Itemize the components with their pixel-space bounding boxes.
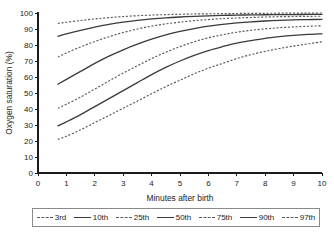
curve-25th (58, 26, 322, 108)
percentile-curves (58, 13, 322, 139)
oxygen-saturation-chart-figure: 0102030405060708090100012345678910Minute… (0, 0, 334, 235)
y-tick-label: 100 (20, 9, 34, 18)
legend-swatch-97th-icon (282, 217, 298, 218)
legend-entry-50th[interactable]: 50th (157, 214, 192, 222)
legend-label: 25th (134, 214, 150, 222)
legend-entry-90th[interactable]: 90th (240, 214, 275, 222)
y-tick-label: 70 (24, 57, 33, 66)
legend-entry-97th[interactable]: 97th (282, 214, 316, 222)
legend-swatch-3rd-icon (37, 217, 53, 218)
curve-50th (58, 19, 322, 84)
x-tick-label: 9 (291, 179, 296, 188)
chart-plot-area: 0102030405060708090100012345678910Minute… (0, 0, 334, 235)
y-tick-label: 60 (24, 73, 33, 82)
legend-label: 50th (176, 214, 192, 222)
legend-label: 75th (217, 214, 233, 222)
legend-swatch-90th-icon (240, 217, 257, 218)
y-axis-title: Oxygen saturation (%) (4, 51, 14, 135)
y-tick-label: 20 (24, 137, 33, 146)
y-tick-label: 10 (24, 153, 33, 162)
axis-labels: 0102030405060708090100012345678910Minute… (4, 9, 327, 203)
legend-swatch-50th-icon (157, 217, 174, 218)
y-tick-label: 40 (24, 105, 33, 114)
legend-swatch-25th-icon (116, 217, 132, 218)
x-tick-label: 2 (93, 179, 98, 188)
x-tick-label: 0 (36, 179, 41, 188)
x-tick-label: 5 (178, 179, 183, 188)
legend-swatch-75th-icon (199, 217, 215, 218)
legend-entry-75th[interactable]: 75th (199, 214, 233, 222)
legend-label: 3rd (55, 214, 67, 222)
x-tick-label: 4 (149, 179, 154, 188)
legend-label: 97th (300, 214, 316, 222)
y-tick-label: 50 (24, 89, 33, 98)
legend-entry-3rd[interactable]: 3rd (37, 214, 67, 222)
legend-entry-10th[interactable]: 10th (74, 214, 109, 222)
legend-swatch-10th-icon (74, 217, 91, 218)
legend-entry-25th[interactable]: 25th (116, 214, 150, 222)
x-axis-title: Minutes after birth (146, 193, 213, 203)
x-tick-label: 1 (64, 179, 69, 188)
y-tick-label: 0 (29, 169, 34, 178)
curve-90th (58, 14, 322, 36)
x-tick-label: 6 (206, 179, 211, 188)
y-tick-label: 30 (24, 121, 33, 130)
x-tick-label: 3 (121, 179, 126, 188)
y-tick-label: 90 (24, 25, 33, 34)
y-tick-label: 80 (24, 41, 33, 50)
x-tick-label: 8 (263, 179, 268, 188)
x-tick-label: 10 (318, 179, 327, 188)
x-tick-label: 7 (235, 179, 240, 188)
chart-legend: 3rd10th25th50th75th90th97th (32, 208, 320, 227)
legend-label: 10th (93, 214, 109, 222)
legend-label: 90th (259, 214, 275, 222)
